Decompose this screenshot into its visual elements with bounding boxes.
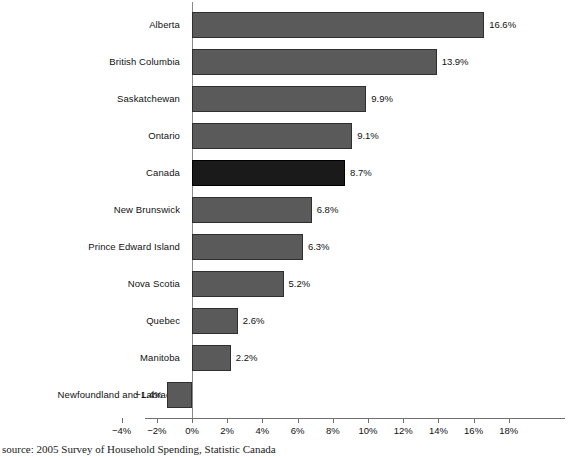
x-tick-label: −2% [147,425,166,436]
bar [192,197,312,223]
bar [192,308,238,334]
category-label: Canada [146,160,180,186]
x-tick-label: 10% [358,425,377,436]
x-tick-label: −4% [112,425,131,436]
bar-row: British Columbia13.9% [0,49,573,75]
bar [192,12,484,38]
x-tick [368,418,369,423]
x-tick-label: 6% [291,425,305,436]
bar-row: Newfoundland and Labrador−1.4% [0,382,573,408]
value-label: 16.6% [489,12,516,38]
x-tick-label: 18% [499,425,518,436]
value-label: 9.9% [371,86,393,112]
category-label: Quebec [146,308,180,334]
x-tick [333,418,334,423]
x-tick-label: 8% [326,425,340,436]
bar [167,382,192,408]
x-tick-label: 16% [464,425,483,436]
x-tick-label: 4% [256,425,270,436]
x-tick [192,418,193,423]
value-label: 5.2% [289,271,311,297]
value-label: 2.2% [236,345,258,371]
x-tick [298,418,299,423]
value-label: 8.7% [350,160,372,186]
x-tick [509,418,510,423]
bar-rows: Alberta16.6%British Columbia13.9%Saskatc… [0,0,573,418]
bar-row: Canada8.7% [0,160,573,186]
bar [192,86,366,112]
x-tick [227,418,228,423]
value-label: 2.6% [243,308,265,334]
value-label: 6.8% [317,197,339,223]
bar [192,49,437,75]
bar [192,160,345,186]
source-caption: source: 2005 Survey of Household Spendin… [2,443,276,455]
bar [192,271,284,297]
value-label: 9.1% [357,123,379,149]
bar-chart: Alberta16.6%British Columbia13.9%Saskatc… [0,0,573,457]
category-label: New Brunswick [114,197,180,223]
category-label: Saskatchewan [117,86,180,112]
category-label: Nova Scotia [128,271,180,297]
bar [192,345,231,371]
x-tick-label: 2% [220,425,234,436]
bar [192,123,352,149]
x-tick [157,418,158,423]
x-tick [122,418,123,423]
category-label: Manitoba [140,345,180,371]
bar [192,234,303,260]
bar-row: Prince Edward Island6.3% [0,234,573,260]
bar-row: Quebec2.6% [0,308,573,334]
bar-row: New Brunswick6.8% [0,197,573,223]
x-tick [438,418,439,423]
value-label: −1.4% [135,382,162,408]
bar-row: Alberta16.6% [0,12,573,38]
x-tick-label: 12% [394,425,413,436]
x-axis-line [145,418,565,419]
category-label: Prince Edward Island [88,234,180,260]
value-label: 13.9% [442,49,469,75]
x-tick [262,418,263,423]
bar-row: Manitoba2.2% [0,345,573,371]
x-tick [403,418,404,423]
x-tick [474,418,475,423]
value-label: 6.3% [308,234,330,260]
category-label: British Columbia [109,49,180,75]
x-tick-label: 0% [185,425,199,436]
category-label: Alberta [149,12,180,38]
bar-row: Nova Scotia5.2% [0,271,573,297]
bar-row: Ontario9.1% [0,123,573,149]
category-label: Ontario [148,123,180,149]
plot-area: Alberta16.6%British Columbia13.9%Saskatc… [0,0,573,418]
x-tick-label: 14% [429,425,448,436]
bar-row: Saskatchewan9.9% [0,86,573,112]
